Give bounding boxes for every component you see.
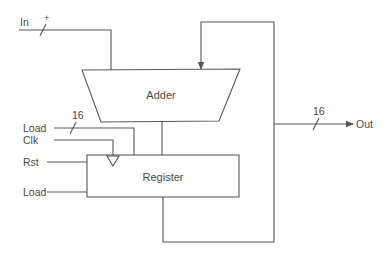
accumulator-diagram: In + Adder Load 16 Clk Register Rst Load… <box>0 0 390 253</box>
adder-label: Adder <box>146 89 176 101</box>
feedback-wire <box>163 22 274 242</box>
load-ctrl-label: Load <box>23 186 47 198</box>
in-bus-mark: + <box>44 13 49 23</box>
rst-label: Rst <box>23 156 39 168</box>
register-label: Register <box>143 171 184 183</box>
load-data-wire <box>54 128 134 155</box>
clk-label: Clk <box>23 134 39 146</box>
out-label: Out <box>356 118 373 130</box>
in-label: In <box>20 16 29 28</box>
load-bus-width: 16 <box>72 109 84 121</box>
in-wire <box>19 24 111 70</box>
load-data-label: Load <box>23 122 47 134</box>
out-bus-width: 16 <box>313 105 325 117</box>
clk-wire <box>54 140 113 155</box>
